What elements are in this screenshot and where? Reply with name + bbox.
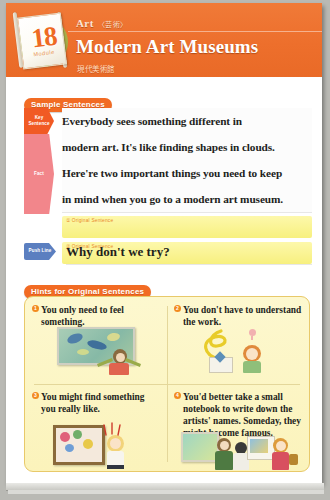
push-line-marker: Push Line (24, 243, 56, 260)
page-header: 18 Module Art〈芸術〉 Modern Art Museums 現代美… (6, 3, 322, 77)
subject-kicker-label: Art (76, 17, 94, 29)
subject-kicker-jp: 〈芸術〉 (98, 21, 128, 29)
hint-illustration-1 (51, 327, 151, 373)
hint-text-3: 3 You might find something you really li… (32, 391, 160, 415)
sentence-line: in mind when you go to a modern art muse… (62, 186, 312, 213)
hint-illustration-3 (53, 425, 163, 469)
hint-item-3: 3 You might find something you really li… (25, 384, 167, 471)
page-title: Modern Art Museums (76, 36, 258, 58)
hint-number-3: 3 (32, 392, 39, 399)
push-line-marker-label: Push Line (29, 248, 52, 254)
sentence-text: Here're two important things you need to… (62, 167, 282, 179)
hint-item-4: 4 You'd better take a small notebook to … (167, 384, 309, 471)
sentence-row: in mind when you go to a modern art muse… (24, 186, 312, 212)
subject-kicker: Art〈芸術〉 (76, 17, 127, 29)
hints-box: 1 You only need to feel something. 2 You… (24, 296, 310, 472)
push-line-text: Why don't we try? (66, 244, 170, 260)
page-title-jp: 現代美術館 (77, 63, 115, 74)
sentence-line: modern art. It's like finding shapes in … (62, 134, 312, 161)
original-sentence-input-1[interactable]: ① Original Sentence (62, 216, 312, 238)
sentence-text: modern art. It's like finding shapes in … (62, 141, 275, 153)
sentence-text: Everybody sees something different in (62, 115, 242, 127)
original-sentence-label-1: ① Original Sentence (66, 218, 113, 223)
sentence-line: Here're two important things you need to… (62, 160, 312, 187)
push-line-row: Push Line Why don't we try? (24, 243, 312, 267)
sentence-text: in mind when you go to a modern art muse… (62, 193, 283, 205)
header-divider-rule (68, 31, 322, 32)
sentence-row: Here're two important things you need to… (24, 160, 312, 186)
hint-number-1: 1 (32, 305, 39, 312)
hint-illustration-4 (181, 432, 311, 470)
unit-badge: 18 Module (14, 13, 72, 71)
hint-label-2: You don't have to understand the work. (183, 305, 301, 327)
hint-item-1: 1 You only need to feel something. (25, 297, 167, 384)
hint-number-4: 4 (174, 392, 181, 399)
hint-label-1: You only need to feel something. (41, 305, 124, 327)
hint-item-2: 2 You don't have to understand the work. (167, 297, 309, 384)
sentence-line: Everybody sees something different in (62, 108, 312, 135)
textbook-page: 18 Module Art〈芸術〉 Modern Art Museums 現代美… (6, 3, 322, 483)
sparkle-icon (101, 421, 127, 439)
hint-number-2: 2 (174, 305, 181, 312)
sample-sentences-body: Key Sentence Fact Everybody sees somethi… (24, 108, 312, 212)
hint-text-1: 1 You only need to feel something. (32, 304, 160, 328)
sentence-row: modern art. It's like finding shapes in … (24, 134, 312, 160)
page-edge-shadow-2 (8, 490, 324, 494)
hint-label-3: You might find something you really like… (41, 392, 144, 414)
push-line-underline (66, 264, 312, 265)
hint-illustration-2 (189, 327, 299, 373)
sentence-row: Everybody sees something different in (24, 108, 312, 134)
